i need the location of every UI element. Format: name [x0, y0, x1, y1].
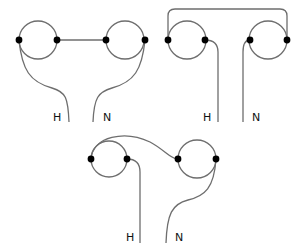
terminal-dot: [165, 37, 172, 44]
coil-right: [178, 140, 216, 178]
coil-right: [249, 21, 287, 59]
neutral-wire: [166, 159, 216, 243]
terminal-dot: [54, 37, 61, 44]
terminal-dot: [284, 37, 291, 44]
terminal-dot: [124, 156, 131, 163]
crossover-wire: [91, 136, 178, 159]
neutral-label: N: [103, 111, 111, 124]
terminal-dot: [142, 37, 149, 44]
hot-wire: [205, 40, 218, 122]
diagram-1: H N: [16, 21, 149, 124]
terminal-dot: [202, 37, 209, 44]
terminal-dot: [88, 156, 95, 163]
terminal-dot: [247, 37, 254, 44]
hot-label: H: [53, 111, 61, 124]
terminal-dot: [103, 37, 110, 44]
wiring-diagrams: H N H N H N: [0, 0, 303, 246]
hot-label: H: [126, 231, 134, 244]
neutral-wire: [93, 40, 145, 122]
neutral-wire: [243, 40, 250, 122]
terminal-dot: [213, 156, 220, 163]
top-bridge-wire: [168, 9, 287, 40]
coil-left: [19, 21, 57, 59]
coil-right: [106, 21, 144, 59]
hot-label: H: [203, 111, 211, 124]
coil-left: [168, 21, 206, 59]
terminal-dot: [175, 156, 182, 163]
neutral-label: N: [175, 231, 183, 244]
diagram-2: H N: [165, 9, 291, 124]
terminal-dot: [16, 37, 23, 44]
hot-wire: [19, 40, 69, 122]
neutral-label: N: [252, 111, 260, 124]
diagram-3: H N: [88, 136, 220, 244]
